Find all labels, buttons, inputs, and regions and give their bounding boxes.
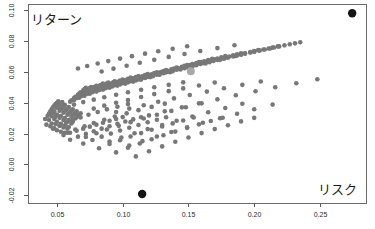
y-tick-label: 0.04 [8, 97, 15, 111]
data-point [209, 119, 214, 124]
data-point [222, 56, 227, 61]
data-point [139, 95, 144, 100]
data-point [141, 103, 146, 108]
data-point [78, 111, 83, 116]
data-point [197, 122, 202, 127]
data-point [65, 131, 70, 136]
data-point [262, 47, 267, 52]
data-point [170, 46, 175, 51]
data-point [52, 126, 57, 131]
data-point [99, 126, 104, 131]
data-point [119, 135, 124, 140]
data-point [73, 127, 78, 132]
data-point [248, 50, 253, 55]
data-point [137, 60, 142, 65]
data-point [178, 67, 183, 72]
data-point [147, 149, 152, 154]
data-point [234, 93, 239, 98]
data-point [174, 118, 179, 123]
data-point [127, 143, 132, 148]
data-point [252, 107, 257, 112]
data-point [145, 120, 150, 125]
data-point [156, 49, 161, 54]
data-point [124, 111, 129, 116]
data-point [234, 54, 239, 59]
y-tick-label: 0.08 [8, 35, 15, 49]
data-point [164, 115, 169, 120]
y-tick-label: 0.00 [8, 158, 15, 172]
data-point [185, 44, 190, 49]
data-point [253, 89, 258, 94]
data-point [185, 125, 190, 130]
data-point [215, 46, 220, 51]
data-point [145, 127, 150, 132]
data-point [212, 80, 217, 85]
data-point [114, 100, 119, 105]
data-point [55, 120, 60, 125]
data-point [128, 134, 133, 139]
data-point [223, 106, 228, 111]
x-tick-label: 0.25 [314, 211, 328, 218]
data-point [239, 119, 244, 124]
data-point [95, 61, 100, 66]
data-point [187, 93, 192, 98]
data-point [170, 121, 175, 126]
data-point [149, 127, 154, 132]
data-point [102, 118, 107, 123]
highlighted-data-point [348, 9, 356, 17]
data-point [90, 138, 95, 143]
data-point [111, 66, 116, 71]
data-point [116, 124, 121, 129]
data-point [258, 79, 263, 84]
data-point [44, 122, 49, 127]
data-point [152, 85, 157, 90]
data-point [218, 116, 223, 121]
data-point [155, 134, 160, 139]
data-point [107, 139, 112, 144]
data-point [127, 106, 132, 111]
x-tick-label: 0.15 [182, 211, 196, 218]
data-point [126, 98, 131, 103]
highlighted-data-point [187, 67, 195, 75]
data-point [169, 109, 174, 114]
data-point [182, 52, 187, 57]
data-point [173, 139, 178, 144]
data-point [91, 97, 96, 102]
y-tick-label: 0.02 [8, 128, 15, 142]
data-point [181, 118, 186, 123]
y-tick-label: 0.10 [8, 4, 15, 18]
data-point [149, 137, 154, 142]
chart-canvas: -0.020.000.020.040.060.080.10 0.050.100.… [0, 0, 375, 229]
data-point [222, 86, 227, 91]
data-point [215, 97, 220, 102]
data-point [151, 74, 156, 79]
data-point [130, 54, 135, 59]
data-point [166, 55, 171, 60]
data-point [240, 102, 245, 107]
data-point [293, 41, 298, 46]
data-point [97, 146, 102, 151]
data-point [155, 117, 160, 122]
data-point [277, 44, 282, 49]
data-point [132, 131, 137, 136]
data-point [109, 131, 114, 136]
data-point [147, 113, 152, 118]
y-axis-title: リターン [31, 12, 82, 27]
data-point [95, 110, 100, 115]
data-point [105, 127, 110, 132]
data-point [160, 123, 165, 128]
data-point [197, 83, 202, 88]
data-point [99, 134, 104, 139]
highlighted-data-point [138, 190, 146, 198]
data-point [123, 119, 128, 124]
data-point [64, 120, 69, 125]
data-point [201, 120, 206, 125]
data-point [106, 59, 111, 64]
data-point [115, 104, 120, 109]
data-point [160, 144, 165, 149]
data-point [143, 51, 148, 56]
data-point [102, 95, 107, 100]
data-point [218, 58, 223, 63]
data-point [162, 101, 167, 106]
data-point [239, 52, 244, 57]
